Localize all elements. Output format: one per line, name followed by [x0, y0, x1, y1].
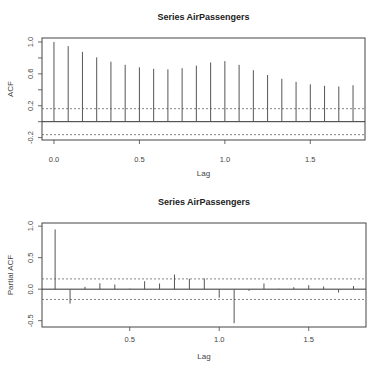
y-tick-label: -0.5: [26, 314, 35, 327]
x-axis-label: Lag: [197, 352, 210, 361]
y-tick-label: 0.2: [26, 101, 35, 111]
pacf-panel: Series AirPassengers0.51.01.5-0.50.00.51…: [6, 197, 366, 361]
x-tick-label: 1.5: [303, 335, 313, 344]
y-tick-label: 0.5: [26, 252, 35, 262]
y-tick-label: 0.6: [26, 69, 35, 79]
x-tick-label: 0.5: [134, 155, 144, 164]
y-tick-label: 0.0: [26, 284, 35, 294]
x-tick-label: 1.0: [214, 335, 224, 344]
y-axis-label: Partial ACF: [6, 255, 15, 296]
y-tick-label: -0.2: [26, 131, 35, 144]
plot-frame: [42, 223, 366, 327]
acf-panel: Series AirPassengers0.00.51.01.5-0.20.20…: [6, 12, 365, 178]
chart-title: Series AirPassengers: [157, 12, 249, 22]
x-tick-label: 1.0: [220, 155, 230, 164]
y-axis-label: ACF: [6, 81, 15, 97]
x-tick-label: 0.5: [124, 335, 134, 344]
x-axis-label: Lag: [197, 169, 210, 178]
chart-title: Series AirPassengers: [158, 197, 250, 207]
y-tick-label: 1.0: [26, 221, 35, 231]
chart-canvas: Series AirPassengers0.00.51.01.5-0.20.20…: [0, 0, 373, 375]
x-tick-label: 0.0: [49, 155, 59, 164]
y-tick-label: 1.0: [26, 37, 35, 47]
x-tick-label: 1.5: [305, 155, 315, 164]
plot-frame: [42, 38, 365, 140]
